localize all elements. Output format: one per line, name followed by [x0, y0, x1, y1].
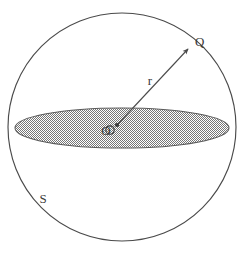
label-point-q: Q: [195, 34, 205, 49]
label-radius: r: [148, 73, 153, 88]
figure-canvas: Q r S O: [0, 0, 243, 255]
label-center-o: O: [101, 123, 110, 138]
equatorial-disc-ellipse: [15, 108, 229, 148]
sphere-diagram-svg: Q r S O: [0, 0, 243, 255]
label-surface-s: S: [39, 191, 46, 206]
center-point-dot: [115, 123, 119, 127]
